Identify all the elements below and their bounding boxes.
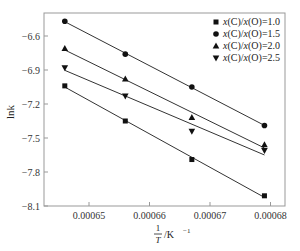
circle-marker [123, 51, 129, 57]
y-tick-label: −6.6 [22, 31, 40, 42]
y-tick-label: −7.8 [22, 167, 40, 178]
circle-marker [62, 18, 68, 24]
square-marker [62, 83, 67, 88]
y-tick-label: −6.9 [22, 65, 40, 76]
square-marker [262, 193, 267, 198]
triangle-up-marker [62, 45, 69, 51]
legend-label: x(C)/x(O)=2.0 [222, 40, 280, 52]
legend-label: x(C)/x(O)=1.0 [222, 16, 280, 28]
square-marker [214, 20, 219, 25]
x-label-unit: /K [164, 229, 175, 240]
y-tick-label: −7.2 [22, 99, 40, 110]
x-tick-label: 0.00068 [254, 210, 287, 221]
legend-label: x(C)/x(O)=2.5 [222, 52, 280, 64]
y-axis-label: lnk [4, 104, 16, 119]
x-tick-label: 0.00066 [133, 210, 166, 221]
triangle-up-marker [189, 114, 196, 120]
triangle-down-marker [189, 129, 196, 135]
triangle-up-marker [261, 141, 268, 147]
x-tick-label: 0.00067 [194, 210, 227, 221]
y-tick-label: −8.1 [22, 201, 40, 212]
square-marker [189, 157, 194, 162]
fit-line [65, 50, 265, 148]
circle-marker [189, 84, 195, 90]
x-axis-label: 1 T /K −1 [154, 223, 191, 245]
circle-marker [213, 31, 219, 37]
chart: −6.6−6.9−7.2−7.5−7.8−8.1 0.000650.000660… [0, 0, 300, 251]
triangle-down-marker [261, 148, 268, 154]
triangle-up-marker [213, 43, 220, 49]
legend: x(C)/x(O)=1.0x(C)/x(O)=1.5x(C)/x(O)=2.0x… [213, 16, 280, 64]
x-label-numerator: 1 [156, 223, 161, 233]
x-axis: 0.000650.000660.000670.00068 [73, 202, 287, 221]
x-label-exponent: −1 [183, 227, 191, 235]
x-tick-label: 0.00065 [73, 210, 106, 221]
x-label-denominator: T [155, 235, 161, 245]
triangle-down-marker [62, 65, 69, 71]
triangle-down-marker [213, 56, 220, 62]
y-tick-label: −7.5 [22, 133, 40, 144]
legend-label: x(C)/x(O)=1.5 [222, 28, 280, 40]
circle-marker [262, 123, 268, 129]
square-marker [123, 119, 128, 124]
